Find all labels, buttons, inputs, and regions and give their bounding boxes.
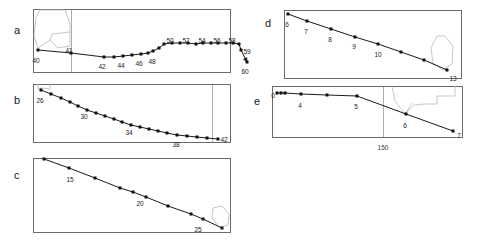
panel-letter-d: d <box>265 18 271 29</box>
axis-tick-label-e-150: 150 <box>378 144 389 151</box>
point-label-a-58: 58 <box>228 37 235 44</box>
data-point-marker <box>176 134 178 136</box>
panel-c <box>34 158 231 233</box>
data-point-marker <box>246 61 248 63</box>
data-point-marker <box>95 112 97 114</box>
data-point-marker <box>130 124 132 126</box>
data-point-marker <box>157 130 159 132</box>
data-point-marker <box>113 118 115 120</box>
figure-container: a40414244464850525456585960b2630343842c1… <box>0 0 483 243</box>
data-point-marker <box>94 177 96 179</box>
point-label-a-52: 52 <box>182 37 189 44</box>
data-point-marker <box>37 49 39 51</box>
point-label-a-54: 54 <box>198 37 205 44</box>
data-point-marker <box>77 105 79 107</box>
data-point-marker <box>86 109 88 111</box>
data-point-marker <box>167 205 169 207</box>
data-point-marker <box>119 187 121 189</box>
data-point-marker <box>104 115 106 117</box>
data-point-marker <box>190 213 192 215</box>
data-point-marker <box>122 55 124 57</box>
data-point-marker <box>356 95 358 97</box>
data-point-marker <box>354 36 356 38</box>
data-point-marker <box>196 136 198 138</box>
data-point-marker <box>240 49 242 51</box>
point-label-b-42: 42 <box>220 136 227 143</box>
data-point-marker <box>238 43 240 45</box>
panel-d <box>285 11 462 79</box>
data-point-marker <box>50 93 52 95</box>
data-point-marker <box>113 56 115 58</box>
data-point-marker <box>40 89 42 91</box>
data-point-marker <box>452 130 454 132</box>
data-point-marker <box>405 113 407 115</box>
point-label-a-50: 50 <box>166 37 173 44</box>
data-point-marker <box>43 158 45 160</box>
data-point-marker <box>140 53 142 55</box>
point-label-c-15: 15 <box>66 176 73 183</box>
point-label-b-38: 38 <box>172 141 179 148</box>
data-point-marker <box>68 167 70 169</box>
data-point-marker <box>186 135 188 137</box>
data-point-marker <box>148 128 150 130</box>
point-label-a-42: 42 <box>98 63 105 70</box>
data-point-marker <box>60 97 62 99</box>
point-label-c-20: 20 <box>136 200 143 207</box>
data-point-marker <box>276 92 278 94</box>
data-point-marker <box>152 50 154 52</box>
data-point-marker <box>145 196 147 198</box>
point-label-d-7: 7 <box>304 28 308 35</box>
multi-panel-line-chart-svg <box>0 0 483 243</box>
point-label-a-40: 40 <box>32 57 39 64</box>
data-point-marker <box>147 52 149 54</box>
data-point-marker <box>103 56 105 58</box>
data-point-marker <box>69 101 71 103</box>
point-label-e-5: 5 <box>354 103 358 110</box>
panel-letter-a: a <box>14 25 20 36</box>
point-label-d-6: 6 <box>285 21 289 28</box>
data-point-marker <box>330 28 332 30</box>
data-point-marker <box>166 132 168 134</box>
data-point-marker <box>158 47 160 49</box>
point-label-c-25: 25 <box>194 226 201 233</box>
point-label-e-7: 7 <box>457 132 461 139</box>
point-label-d-10: 10 <box>374 51 381 58</box>
data-point-marker <box>139 126 141 128</box>
panel-letter-b: b <box>14 95 20 106</box>
panel-letter-c: c <box>14 170 20 181</box>
point-label-e-0: 0 <box>271 92 275 99</box>
data-point-marker <box>446 69 448 71</box>
data-point-marker <box>287 13 289 15</box>
point-label-a-60: 60 <box>241 68 248 75</box>
point-label-a-46: 46 <box>135 60 142 67</box>
point-label-a-41: 41 <box>65 47 72 54</box>
data-point-marker <box>423 59 425 61</box>
data-point-marker <box>202 218 204 220</box>
data-point-marker <box>210 42 212 44</box>
data-point-marker <box>131 54 133 56</box>
panel-letter-e: e <box>254 96 260 107</box>
point-label-b-26: 26 <box>36 97 43 104</box>
data-point-marker <box>132 191 134 193</box>
panel-frame-c <box>34 159 231 233</box>
data-point-marker <box>221 227 223 229</box>
panel-frame-d <box>285 11 462 79</box>
data-point-marker <box>284 92 286 94</box>
point-label-e-4: 4 <box>298 102 302 109</box>
point-label-d-9: 9 <box>352 43 356 50</box>
point-label-b-34: 34 <box>125 129 132 136</box>
data-point-marker <box>121 121 123 123</box>
data-point-marker <box>377 43 379 45</box>
data-point-marker <box>326 94 328 96</box>
point-label-b-30: 30 <box>80 113 87 120</box>
point-label-a-44: 44 <box>117 62 124 69</box>
data-point-marker <box>225 42 227 44</box>
data-point-marker <box>300 93 302 95</box>
data-point-marker <box>195 43 197 45</box>
data-point-marker <box>217 138 219 140</box>
point-label-d-8: 8 <box>328 36 332 43</box>
data-point-marker <box>280 92 282 94</box>
data-point-marker <box>179 42 181 44</box>
data-point-marker <box>400 51 402 53</box>
point-label-e-6: 6 <box>403 122 407 129</box>
